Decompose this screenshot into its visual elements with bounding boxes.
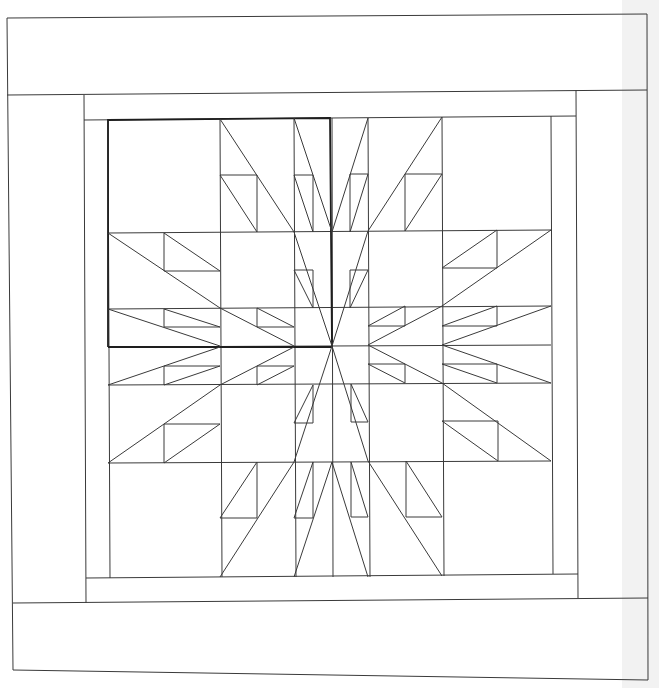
- quilt-diagram-canvas: [0, 0, 659, 688]
- bottom-border-band-edge: [13, 598, 648, 603]
- right-border-column-edge: [576, 90, 578, 598]
- top-border-band-edge: [7, 90, 647, 95]
- quilt-pattern-drawing: [0, 0, 659, 688]
- left-border-column-edge: [84, 95, 86, 603]
